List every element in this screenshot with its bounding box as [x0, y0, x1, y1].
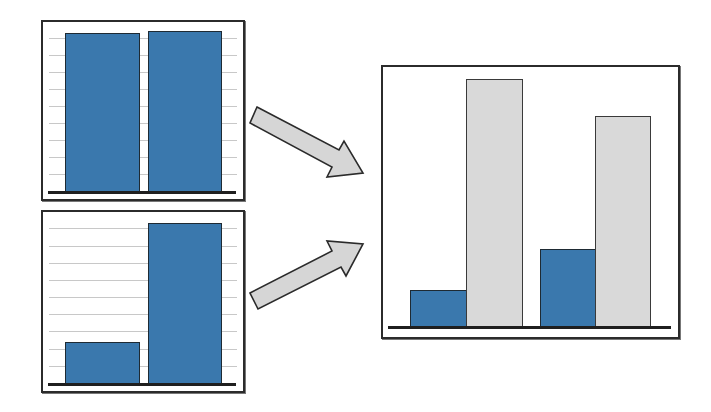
arrow-top-icon — [250, 107, 363, 177]
arrows-layer — [0, 0, 711, 412]
arrow-bottom-icon — [250, 241, 363, 309]
